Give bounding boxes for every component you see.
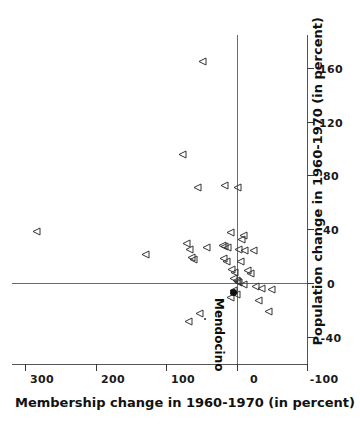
data-point-triangle (246, 269, 255, 278)
data-point-dot (204, 318, 206, 320)
plot-rotated-canvas: 3002001000-100 16012080400-40 Membership… (0, 0, 360, 424)
membership-tick-label: -100 (308, 373, 340, 386)
membership-tick-label: 200 (97, 373, 129, 386)
population-axis-spine (307, 35, 308, 365)
membership-tick (237, 364, 238, 371)
membership-tick (307, 364, 308, 371)
data-point-triangle (233, 183, 242, 192)
mendocino-annotation-label: Mendocino (212, 298, 226, 371)
data-point-triangle (226, 229, 235, 238)
data-point-triangle (141, 250, 150, 259)
membership-tick (166, 364, 167, 371)
data-point-triangle (237, 235, 246, 244)
data-point-triangle (193, 183, 202, 192)
population-axis-title: Population change in 1960-1970 (in perce… (310, 56, 325, 346)
data-point-triangle (254, 296, 263, 305)
data-point-triangle (220, 181, 229, 190)
data-point-triangle (239, 280, 248, 289)
data-point-triangle (249, 246, 258, 255)
data-point-triangle (202, 243, 211, 252)
membership-tick (96, 364, 97, 371)
data-point-triangle (198, 57, 207, 66)
membership-axis-spine (12, 364, 308, 365)
scatter-plot-figure: 3002001000-100 16012080400-40 Membership… (0, 0, 360, 424)
membership-tick-label: 100 (167, 373, 199, 386)
data-point-triangle (264, 307, 273, 316)
data-point-triangle (267, 285, 276, 294)
data-point-triangle (257, 284, 266, 293)
data-point-triangle (184, 317, 193, 326)
membership-tick-label: 300 (26, 373, 58, 386)
membership-tick (25, 364, 26, 371)
membership-tick-label: 0 (238, 373, 270, 386)
membership-axis-title: Membership change in 1960-1970 (in perce… (15, 395, 305, 410)
data-point-triangle (223, 243, 232, 252)
data-point-triangle (32, 227, 41, 236)
data-point-triangle (195, 309, 204, 318)
data-point-triangle (189, 255, 198, 264)
data-point-triangle (178, 150, 187, 159)
zero-membership-reference-line (237, 35, 238, 365)
data-point-triangle (236, 257, 245, 266)
